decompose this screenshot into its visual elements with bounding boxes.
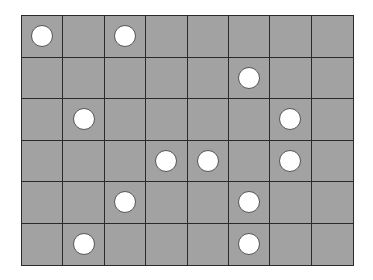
board-cell-r0-c7[interactable] [312, 16, 353, 58]
board-cell-r0-c2[interactable] [105, 16, 146, 58]
board-cell-r5-c1[interactable] [63, 224, 104, 266]
board-cell-r2-c5[interactable] [229, 99, 270, 141]
board-cell-r0-c3[interactable] [146, 16, 187, 58]
white-piece-icon[interactable] [31, 25, 53, 47]
board-cell-r3-c0[interactable] [22, 141, 63, 183]
board-cell-r2-c3[interactable] [146, 99, 187, 141]
board-cell-r4-c6[interactable] [270, 182, 311, 224]
board-cell-r1-c0[interactable] [22, 58, 63, 100]
board-cell-r4-c4[interactable] [188, 182, 229, 224]
white-piece-icon[interactable] [197, 150, 219, 172]
white-piece-icon[interactable] [238, 191, 260, 213]
board-cell-r2-c2[interactable] [105, 99, 146, 141]
board-cell-r4-c1[interactable] [63, 182, 104, 224]
board-cell-r3-c2[interactable] [105, 141, 146, 183]
board-cell-r3-c4[interactable] [188, 141, 229, 183]
board-cell-r4-c3[interactable] [146, 182, 187, 224]
white-piece-icon[interactable] [279, 150, 301, 172]
white-piece-icon[interactable] [155, 150, 177, 172]
board-cell-r5-c4[interactable] [188, 224, 229, 266]
board-cell-r2-c6[interactable] [270, 99, 311, 141]
board-cell-r1-c4[interactable] [188, 58, 229, 100]
board-cell-r0-c0[interactable] [22, 16, 63, 58]
board-cell-r4-c7[interactable] [312, 182, 353, 224]
board-cell-r5-c3[interactable] [146, 224, 187, 266]
board-cell-r1-c7[interactable] [312, 58, 353, 100]
white-piece-icon[interactable] [238, 233, 260, 255]
board-cell-r0-c4[interactable] [188, 16, 229, 58]
board-cell-r1-c2[interactable] [105, 58, 146, 100]
game-board [21, 15, 354, 266]
board-cell-r2-c7[interactable] [312, 99, 353, 141]
board-cell-r0-c6[interactable] [270, 16, 311, 58]
board-cell-r3-c7[interactable] [312, 141, 353, 183]
board-cell-r1-c6[interactable] [270, 58, 311, 100]
board-cell-r3-c3[interactable] [146, 141, 187, 183]
board-cell-r3-c1[interactable] [63, 141, 104, 183]
white-piece-icon[interactable] [114, 25, 136, 47]
white-piece-icon[interactable] [238, 67, 260, 89]
board-cell-r1-c3[interactable] [146, 58, 187, 100]
white-piece-icon[interactable] [73, 233, 95, 255]
board-cell-r3-c6[interactable] [270, 141, 311, 183]
board-cell-r0-c5[interactable] [229, 16, 270, 58]
board-cell-r0-c1[interactable] [63, 16, 104, 58]
board-cell-r1-c1[interactable] [63, 58, 104, 100]
white-piece-icon[interactable] [279, 108, 301, 130]
board-cell-r2-c0[interactable] [22, 99, 63, 141]
board-cell-r5-c7[interactable] [312, 224, 353, 266]
board-cell-r5-c6[interactable] [270, 224, 311, 266]
board-cell-r5-c2[interactable] [105, 224, 146, 266]
white-piece-icon[interactable] [73, 108, 95, 130]
board-cell-r3-c5[interactable] [229, 141, 270, 183]
board-cell-r2-c4[interactable] [188, 99, 229, 141]
white-piece-icon[interactable] [114, 191, 136, 213]
board-cell-r5-c5[interactable] [229, 224, 270, 266]
board-cell-r1-c5[interactable] [229, 58, 270, 100]
board-cell-r4-c0[interactable] [22, 182, 63, 224]
board-cell-r4-c5[interactable] [229, 182, 270, 224]
board-cell-r2-c1[interactable] [63, 99, 104, 141]
board-cell-r4-c2[interactable] [105, 182, 146, 224]
board-cell-r5-c0[interactable] [22, 224, 63, 266]
